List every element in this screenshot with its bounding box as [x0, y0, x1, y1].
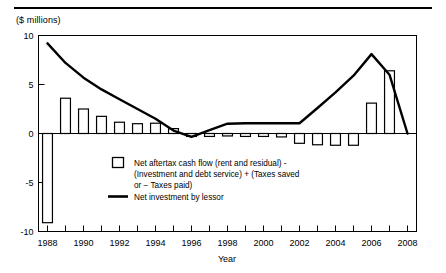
bar — [205, 134, 215, 137]
bar — [277, 134, 287, 137]
y-tick-label: -10 — [20, 227, 33, 237]
x-tick-label: 2006 — [361, 238, 381, 248]
y-tick-label: -5 — [25, 178, 33, 188]
x-axis-ticks: 1988199019921994199619982000200220042006… — [37, 226, 417, 248]
y-tick-label: 5 — [28, 80, 33, 90]
legend-label-bar-line1: Net aftertax cash flow (rent and residua… — [134, 159, 287, 168]
bar — [241, 134, 251, 137]
x-axis-title: Year — [218, 254, 236, 264]
bar — [385, 71, 395, 134]
x-tick-label: 2008 — [397, 238, 417, 248]
x-tick-label: 1996 — [181, 238, 201, 248]
figure-container: ($ millions) -10-50510 19881990199219941… — [0, 0, 446, 273]
x-tick-label: 1992 — [109, 238, 129, 248]
bar — [223, 134, 233, 136]
bar — [295, 134, 305, 144]
bar — [61, 98, 71, 133]
bar — [367, 103, 377, 133]
legend-label-line: Net investment by lessor — [134, 193, 224, 202]
bar — [115, 122, 125, 133]
x-tick-label: 1988 — [37, 238, 57, 248]
x-tick-label: 2002 — [289, 238, 309, 248]
bar — [331, 134, 341, 146]
y-tick-label: 0 — [28, 129, 33, 139]
chart-canvas: -10-50510 198819901992199419961998200020… — [0, 0, 446, 273]
y-tick-label: 10 — [23, 31, 33, 41]
bar — [259, 134, 269, 137]
bar — [151, 123, 161, 133]
bar — [133, 124, 143, 134]
x-tick-label: 1990 — [73, 238, 93, 248]
legend: Net aftertax cash flow (rent and residua… — [108, 158, 300, 203]
x-tick-label: 1994 — [145, 238, 165, 248]
x-tick-label: 2004 — [325, 238, 345, 248]
bar — [97, 116, 107, 133]
bar — [79, 109, 89, 134]
bar — [313, 134, 323, 145]
bar — [43, 134, 53, 223]
bar — [349, 134, 359, 146]
x-tick-label: 1998 — [217, 238, 237, 248]
legend-label-bar-line2: (Investment and debt service) + (Taxes s… — [134, 170, 300, 179]
legend-swatch-bar — [113, 158, 124, 168]
x-tick-label: 2000 — [253, 238, 273, 248]
legend-label-bar-line3: or − Taxes paid) — [134, 181, 193, 190]
